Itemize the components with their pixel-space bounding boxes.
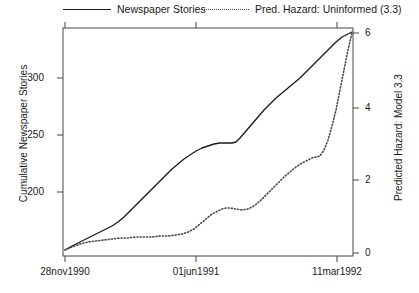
plot-area (0, 0, 419, 293)
tick-marks (57, 22, 359, 262)
chart-figure: Newspaper Stories Pred. Hazard: Uninform… (0, 0, 419, 293)
series-line-pred-hazard (65, 33, 352, 250)
plot-frame (63, 28, 353, 256)
